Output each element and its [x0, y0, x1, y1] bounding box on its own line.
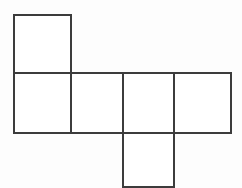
- bottom-square: [123, 133, 174, 188]
- middle-square-2: [71, 73, 123, 133]
- cube-net-figure: [0, 0, 242, 188]
- middle-square-3: [123, 73, 174, 133]
- middle-square-1: [14, 73, 71, 133]
- middle-square-4: [174, 73, 231, 133]
- cube-net-diagram: [0, 0, 242, 188]
- top-square: [14, 15, 71, 73]
